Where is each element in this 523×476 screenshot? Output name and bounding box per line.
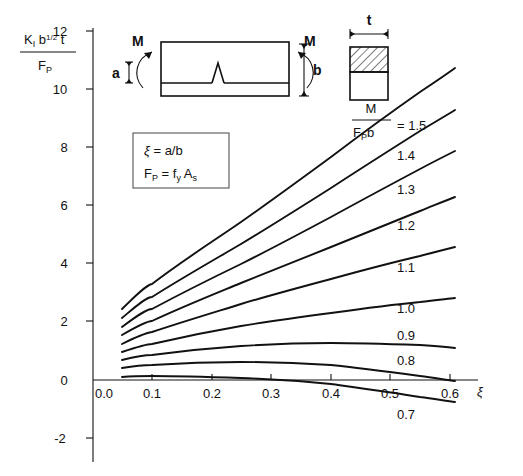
height-arrow-down — [301, 91, 307, 96]
moment-label-right: M — [304, 33, 316, 49]
x-tick-label: 0.1 — [143, 386, 161, 401]
curve-label-1-2: 1.2 — [397, 218, 415, 233]
width-arrow-right — [383, 31, 388, 37]
curve-label-1-5: = 1.5 — [397, 118, 426, 133]
crack-depth-arrow-down — [126, 79, 132, 83]
beam-diagram: M M a b — [112, 33, 322, 96]
y-axis-label-denominator: FP — [38, 58, 52, 75]
x-tick-label: 0.3 — [262, 386, 280, 401]
crack-depth-arrow-up — [126, 62, 132, 66]
definitions-box: ξ = a/b FP = fy As — [133, 133, 229, 188]
curve-label-0-7: 0.7 — [397, 407, 415, 422]
y-tick-label: 6 — [60, 198, 67, 213]
y-axis-ticks: 12 10 8 6 4 2 0 -2 — [53, 24, 93, 446]
width-label: t — [367, 12, 372, 28]
x-axis-label: ξ — [477, 384, 484, 399]
definition-xi: ξ = a/b — [144, 143, 183, 158]
y-tick-label: 12 — [53, 24, 67, 39]
moment-arrow-left — [137, 52, 152, 88]
curve-label-1-4: 1.4 — [397, 148, 415, 163]
height-label: b — [313, 62, 322, 78]
curve-label-0-9: 0.9 — [397, 328, 415, 343]
definition-fp: FP = fy As — [144, 166, 197, 183]
curve-1-4 — [122, 110, 455, 318]
cross-section-diagram: t — [350, 12, 388, 100]
cross-section-hatched-area — [350, 47, 388, 72]
crack-depth-label: a — [112, 65, 120, 81]
moment-arrow-right — [298, 52, 313, 88]
y-tick-label: -2 — [54, 431, 66, 446]
curve-labels: M FPb = 1.5 1.4 1.3 1.2 1.1 1.0 0.9 0.8 … — [352, 101, 426, 422]
width-arrow-left — [350, 31, 355, 37]
y-tick-label: 4 — [60, 256, 67, 271]
cross-section-lower-area — [350, 72, 388, 100]
x-tick-label: 0.6 — [441, 386, 459, 401]
moment-label-left: M — [132, 33, 144, 49]
curve-label-1-1: 1.1 — [397, 260, 415, 275]
y-tick-label: 0 — [60, 373, 67, 388]
chart-canvas: KI b1/2 t FP 12 10 8 6 4 — [0, 0, 523, 476]
y-tick-label: 10 — [53, 82, 67, 97]
figure-container: KI b1/2 t FP 12 10 8 6 4 — [0, 0, 523, 476]
y-tick-label: 8 — [60, 140, 67, 155]
legend-denominator: FPb — [353, 125, 374, 142]
curve-label-1-3: 1.3 — [397, 182, 415, 197]
y-axis-label: KI b1/2 t FP — [20, 32, 76, 75]
x-tick-label: 0.2 — [203, 386, 221, 401]
x-tick-label: 0.0 — [95, 386, 113, 401]
x-tick-label: 0.4 — [322, 386, 340, 401]
curve-label-1-0: 1.0 — [397, 301, 415, 316]
curve-label-0-8: 0.8 — [397, 353, 415, 368]
legend-numerator: M — [366, 101, 377, 116]
crack-notch — [212, 63, 224, 83]
beam-outline — [161, 42, 289, 96]
y-tick-label: 2 — [60, 314, 67, 329]
